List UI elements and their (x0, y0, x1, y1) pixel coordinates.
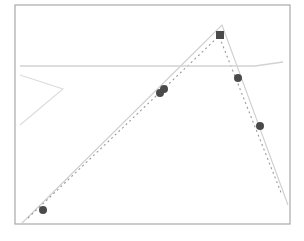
square-marker (216, 31, 224, 39)
circle-marker (160, 85, 168, 93)
circle-marker (234, 74, 242, 82)
angle-line (20, 75, 63, 125)
solid-peak-line (20, 25, 288, 225)
chart-canvas (0, 0, 304, 241)
horizontal-line (20, 62, 283, 66)
dotted-peak-line (28, 36, 282, 218)
circle-marker (39, 206, 47, 214)
marker-layer (39, 31, 264, 214)
circle-marker (256, 122, 264, 130)
series-layer (20, 25, 288, 225)
plot-frame (15, 5, 290, 224)
